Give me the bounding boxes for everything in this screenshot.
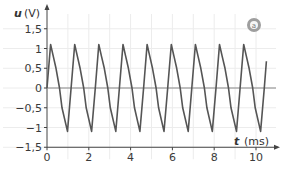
x-tick-label: 6 (169, 151, 176, 164)
chart: 02468101,510,50−0,5−1−1,5 u (V) t (ms) a (0, 0, 284, 176)
x-tick-label: 4 (127, 151, 134, 164)
y-tick-label: 1 (35, 43, 42, 56)
x-tick-label: 2 (85, 151, 92, 164)
y-axis-variable: u (14, 7, 22, 20)
y-axis-unit: (V) (24, 7, 40, 20)
y-tick-label: −0,5 (15, 102, 42, 115)
y-tick-label: 1,5 (25, 23, 43, 36)
y-tick-label: 0,5 (25, 62, 43, 75)
badge-label: a (252, 22, 256, 30)
y-tick-label: 0 (35, 82, 42, 95)
x-axis-title: t (ms) (234, 135, 269, 148)
y-axis-arrow (45, 4, 50, 10)
y-tick-label: −1 (26, 122, 42, 135)
x-axis-unit: (ms) (244, 135, 269, 148)
x-tick-label: 10 (249, 151, 263, 164)
y-axis-title: u (V) (14, 7, 40, 20)
figure-badge: a (247, 18, 261, 32)
x-tick-label: 8 (211, 151, 218, 164)
y-tick-label: −1,5 (15, 141, 42, 154)
x-axis-variable: t (234, 135, 240, 148)
x-tick-label: 0 (44, 151, 51, 164)
